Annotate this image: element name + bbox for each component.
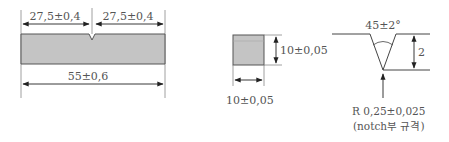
side-view: 27,5±0,4 27,5±0,4 55±0,6 <box>21 8 165 98</box>
notch-angle-dimension: 45±2° <box>365 19 401 32</box>
cross-section-view: 10±0,05 10±0,05 <box>226 35 328 107</box>
width-dimension: 10±0,05 <box>226 94 274 107</box>
specimen-drawing: 27,5±0,4 27,5±0,4 55±0,6 10±0,05 10±0,05… <box>0 0 449 142</box>
left-half-dimension: 27,5±0,4 <box>29 10 80 23</box>
notch-spec-note: (notch부 규격) <box>353 120 424 132</box>
notch-depth-dimension: 2 <box>418 46 425 59</box>
total-length-dimension: 55±0,6 <box>68 70 109 83</box>
cross-section-square <box>233 35 264 65</box>
specimen-bar <box>21 34 165 64</box>
right-half-dimension: 27,5±0,4 <box>102 10 153 23</box>
notch-angle-arc <box>373 42 393 46</box>
notch-detail-view: 45±2° 2 R 0,25±0,025 (notch부 규격) <box>332 19 430 132</box>
notch-radius-dimension: R 0,25±0,025 <box>352 105 425 117</box>
notch-profile <box>332 34 430 70</box>
height-dimension: 10±0,05 <box>280 44 328 57</box>
